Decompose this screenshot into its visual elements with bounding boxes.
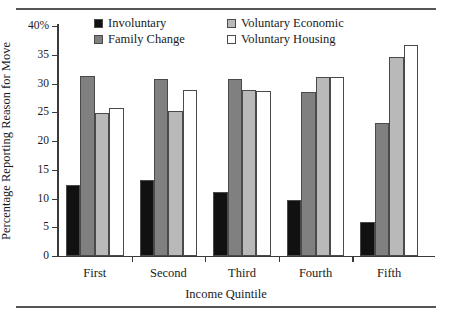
y-axis-tick-label: 35: [38, 49, 50, 61]
bar-group: [132, 26, 206, 256]
x-axis-tick: [132, 256, 133, 262]
bar-group: [205, 26, 279, 256]
bar: [330, 77, 344, 256]
y-axis-tick-label: 5: [43, 222, 49, 234]
y-axis-tick-label: 40%: [28, 20, 49, 32]
bar-group: [58, 26, 132, 256]
bar: [256, 91, 270, 256]
bar: [140, 180, 154, 256]
y-axis-tick-label: 10: [38, 193, 50, 205]
bottom-rule: [16, 306, 436, 308]
bar: [228, 79, 242, 256]
bar: [80, 76, 94, 256]
x-axis-tick-label: Third: [228, 266, 256, 281]
plot-area: 0510152025303540%: [58, 26, 426, 256]
top-rule: [16, 8, 436, 10]
y-axis-tick-label: 0: [43, 250, 49, 262]
y-axis-tick-label: 25: [38, 107, 50, 119]
bar: [109, 108, 123, 256]
bar: [213, 192, 227, 256]
bar: [242, 90, 256, 256]
y-axis-title: Percentage Reporting Reason for Move: [0, 42, 14, 240]
x-axis-title: Income Quintile: [0, 287, 452, 302]
bar: [66, 185, 80, 256]
y-axis-tick-label: 20: [38, 135, 50, 147]
bar-group: [352, 26, 426, 256]
x-axis-tick-label: Second: [150, 266, 187, 281]
bar: [95, 113, 109, 256]
bar: [301, 92, 315, 256]
x-axis-tick-label: Fourth: [299, 266, 332, 281]
x-axis-tick: [352, 256, 353, 262]
x-axis-tick-label: First: [83, 266, 106, 281]
bar: [375, 123, 389, 256]
bar: [154, 79, 168, 256]
x-axis-tick: [205, 256, 206, 262]
figure: InvoluntaryVoluntary EconomicFamily Chan…: [0, 0, 452, 325]
bar: [316, 77, 330, 256]
bar: [287, 200, 301, 256]
y-axis-tick-label: 30: [38, 78, 50, 90]
bar: [168, 111, 182, 256]
y-axis-tick-label: 15: [38, 164, 50, 176]
bar: [360, 222, 374, 257]
bar-group: [279, 26, 353, 256]
bar: [183, 90, 197, 256]
x-axis-tick-label: Fifth: [377, 266, 401, 281]
y-axis-tick: [52, 256, 58, 257]
bar: [389, 57, 403, 256]
x-axis-tick: [279, 256, 280, 262]
bar: [404, 45, 418, 256]
